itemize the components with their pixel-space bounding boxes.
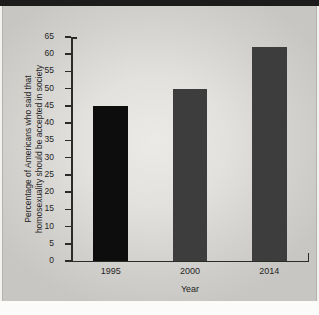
x-axis-tick-label: 2014 <box>230 266 309 276</box>
y-axis-title: Percentage of Americans who said that ho… <box>23 34 45 264</box>
chart-figure: 05101520253035404550556065 199520002014 … <box>0 0 319 315</box>
x-axis-title: Year <box>71 284 309 294</box>
bar-2014 <box>252 47 287 261</box>
bar-2000 <box>173 89 208 261</box>
y-axis-title-line-2: homosexuality should be accepted in soci… <box>34 34 45 264</box>
bottom-margin <box>0 301 319 315</box>
x-axis-tick-label: 1995 <box>71 266 150 276</box>
bars-group <box>71 37 309 261</box>
bar-1995 <box>93 106 128 261</box>
y-axis-title-line-1: Percentage of Americans who said that <box>23 34 34 264</box>
x-axis-tick-label: 2000 <box>150 266 229 276</box>
plot-panel: 05101520253035404550556065 199520002014 … <box>2 6 317 301</box>
